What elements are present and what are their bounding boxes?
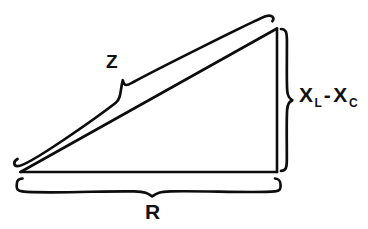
label-net-reactance: XL-XC <box>299 84 359 109</box>
hypotenuse-brace <box>14 16 273 167</box>
reactance-minus-sign: - <box>323 83 334 106</box>
reactance-subscript-l: L <box>314 96 323 110</box>
reactance-x-capacitive: X <box>333 83 348 106</box>
reactance-x-inductive: X <box>299 83 314 106</box>
triangle-hypotenuse-line <box>21 29 278 173</box>
vertical-leg-brace <box>281 29 292 171</box>
reactance-subscript-c: C <box>348 96 359 110</box>
label-resistance-r: R <box>145 201 160 222</box>
label-impedance-z: Z <box>106 52 118 71</box>
base-brace <box>17 179 281 197</box>
impedance-triangle-figure: Z R XL-XC <box>0 0 368 229</box>
triangle-drawing <box>0 0 368 229</box>
